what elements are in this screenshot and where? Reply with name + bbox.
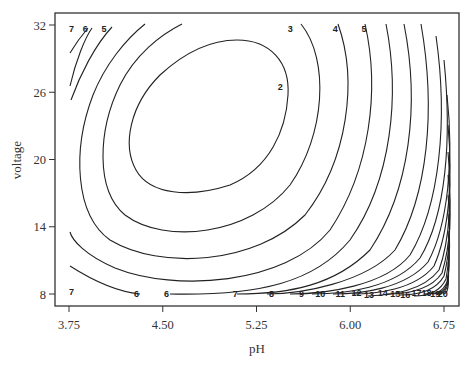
x-axis-title: pH: [249, 341, 265, 356]
x-tick-label: 6.75: [433, 318, 455, 332]
contour-level-3: [103, 24, 320, 232]
contour-label: 7: [233, 289, 238, 299]
contour-label: 11: [335, 289, 345, 299]
x-tick-label: 4.50: [152, 318, 174, 332]
contour-label: 12: [351, 288, 361, 298]
y-tick-label: 26: [34, 86, 47, 100]
y-axis-ticks: [49, 25, 55, 294]
y-axis-title: voltage: [9, 141, 24, 179]
contour-label: 7: [69, 24, 74, 34]
contour-label: 2: [278, 82, 283, 92]
y-tick-labels: 814202632: [34, 19, 47, 302]
contour-level-5-upper: [71, 27, 112, 100]
x-tick-label: 3.75: [58, 318, 80, 332]
contour-label: 6: [134, 289, 139, 299]
x-axis-ticks: [69, 306, 444, 312]
contour-chart: 3.754.505.256.006.75 814202632 pH voltag…: [0, 0, 474, 367]
contour-label: 6: [83, 24, 88, 34]
contour-level-9: [290, 36, 441, 294]
contour-label: 8: [269, 289, 274, 299]
y-tick-label: 14: [34, 220, 47, 234]
x-tick-label: 6.00: [339, 318, 361, 332]
contour-label: 14: [378, 288, 388, 298]
contour-label: 4: [333, 24, 338, 34]
contour-level-6-left: [70, 266, 140, 294]
contour-level-8: [267, 24, 428, 294]
contour-level-15: [400, 195, 450, 295]
contour-label: 16: [400, 290, 410, 300]
y-tick-label: 32: [34, 19, 47, 33]
contour-label: 5: [361, 24, 366, 34]
contour-level-2: [129, 40, 288, 193]
y-tick-label: 20: [34, 153, 47, 167]
contour-label: 10: [315, 289, 325, 299]
contour-label: 5: [101, 24, 106, 34]
x-tick-labels: 3.754.505.256.006.75: [58, 318, 455, 332]
contour-level-12: [352, 125, 450, 294]
plot-frame: [55, 13, 459, 306]
contour-labels-top: 765345: [69, 24, 367, 34]
contour-label: 9: [299, 289, 304, 299]
contour-labels-interior: 2: [278, 82, 283, 92]
contour-lines: [70, 24, 450, 296]
contour-level-6: [170, 24, 392, 294]
contour-label: 7: [69, 287, 74, 297]
contour-label: 3: [288, 24, 293, 34]
y-tick-label: 8: [40, 288, 46, 302]
x-tick-label: 5.25: [246, 318, 268, 332]
contour-label: 13: [364, 290, 374, 300]
contour-label: 15: [390, 289, 400, 299]
contour-level-4: [80, 24, 348, 259]
contour-label: 17: [411, 288, 421, 298]
contour-level-13: [368, 152, 450, 296]
contour-label: 20: [438, 289, 448, 299]
contour-label: 6: [164, 289, 169, 299]
